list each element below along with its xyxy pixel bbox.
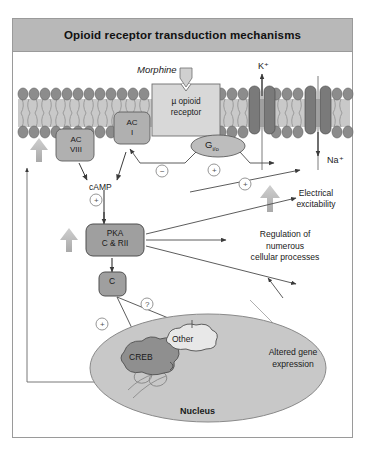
- regulation-label: Regulation of numerous cellular processe…: [230, 229, 340, 264]
- electrical-line1: Electrical: [299, 188, 333, 198]
- g-protein-subscript: i/o: [212, 146, 218, 152]
- morphine-label: Morphine: [137, 64, 177, 75]
- electrical-line2: excitability: [296, 199, 335, 209]
- catalytic-subunit-label: C: [101, 276, 123, 286]
- big-arrow-electrical-up: [260, 185, 280, 212]
- regulation-line1: Regulation of: [260, 229, 311, 239]
- ac1-line2: I: [131, 128, 133, 137]
- creb-label: CREB: [129, 352, 153, 362]
- other-label: Other: [172, 334, 193, 344]
- pka-line1: PKA: [107, 228, 124, 238]
- altered-line1: Altered gene: [269, 347, 318, 357]
- potassium-channel: [249, 74, 275, 170]
- receptor-label-line2: receptor: [171, 107, 201, 117]
- adenylyl-cyclase-8-label: AC VIII: [63, 135, 89, 154]
- regulation-line3: cellular processes: [251, 252, 320, 262]
- link-g-to-ac1: [130, 149, 196, 163]
- diagram-canvas: [0, 0, 367, 455]
- activate-symbol-na: +: [243, 180, 248, 189]
- potassium-label: K⁺: [258, 61, 269, 71]
- link-processes-to-nucleus: [268, 278, 283, 298]
- link-ac8-to-camp: [79, 163, 87, 180]
- activate-symbol-camp: +: [94, 196, 99, 205]
- figure-root: Opioid receptor transduction mechanisms: [0, 0, 367, 455]
- sodium-label: Na⁺: [327, 155, 344, 165]
- nucleus-label: Nucleus: [180, 406, 215, 416]
- link-ac1-to-camp: [117, 152, 126, 180]
- inhibit-symbol-ac1: −: [160, 167, 165, 176]
- ac8-line2: VIII: [70, 145, 82, 154]
- camp-label: cAMP: [89, 182, 112, 192]
- pka-label: PKA C & RII: [93, 228, 137, 248]
- link-g-to-k-channel: [240, 152, 274, 163]
- ac1-line1: AC: [126, 118, 137, 127]
- altered-line2: expression: [272, 359, 314, 369]
- unknown-symbol-c: ?: [145, 300, 149, 309]
- pka-line2: C & RII: [102, 238, 129, 248]
- adenylyl-cyclase-1-label: AC I: [121, 118, 143, 137]
- altered-gene-expression-label: Altered gene expression: [245, 347, 341, 370]
- receptor-label: µ opioid receptor: [158, 96, 214, 117]
- big-arrow-pka-up: [60, 228, 78, 252]
- g-protein-label: Gi/o: [205, 139, 219, 152]
- regulation-line2: numerous: [266, 241, 304, 251]
- receptor-label-line1: µ opioid: [171, 96, 200, 106]
- electrical-excitability-label: Electrical excitability: [283, 188, 349, 210]
- activate-symbol-k: +: [212, 166, 217, 175]
- big-arrow-ac8-up: [30, 138, 48, 162]
- ac8-line1: AC: [70, 135, 81, 144]
- activate-symbol-creb: +: [100, 320, 105, 329]
